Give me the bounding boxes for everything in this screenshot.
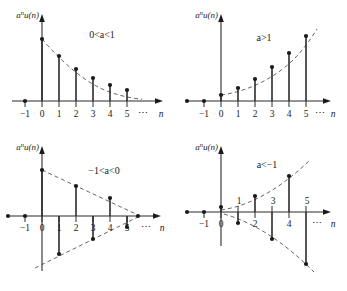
- tick-label-3: 3: [271, 196, 276, 206]
- panel-growing-positive: −1 0 1 2 3 4 5 ⋯ n anu(n) a>1: [174, 0, 347, 145]
- condition-label: 0<a<1: [89, 29, 115, 40]
- tick-label-5: 5: [125, 109, 130, 119]
- tick-label-minus1: −1: [20, 223, 30, 233]
- tick-label-3: 3: [91, 109, 96, 119]
- y-axis: [218, 14, 224, 101]
- ellipsis-label: ⋯: [315, 107, 326, 118]
- tick-label-0: 0: [40, 223, 45, 233]
- y-axis-label: anu(n): [16, 141, 39, 153]
- condition-label: −1<a<0: [88, 165, 119, 176]
- envelope-upper: [42, 170, 138, 215]
- tick-label-minus1: −1: [199, 109, 209, 119]
- condition-label: a<−1: [257, 159, 278, 170]
- tick-label-2: 2: [74, 109, 79, 119]
- x-tick-marks: [25, 216, 127, 222]
- tick-label-4: 4: [108, 109, 113, 119]
- ellipsis-label: ⋯: [138, 107, 149, 118]
- envelope-lower: [35, 217, 138, 268]
- tick-label-1: 1: [57, 109, 62, 119]
- tick-label-4: 4: [108, 223, 113, 233]
- ellipsis-label: ⋯: [141, 221, 152, 232]
- panel-growing-alternating: −1 0 1 2 3 4 5 ⋯ n anu(n) a<−1: [174, 146, 347, 291]
- x-axis-label: n: [331, 109, 336, 119]
- y-axis-label: anu(n): [195, 9, 218, 21]
- tick-label-1: 1: [237, 196, 242, 206]
- sample-dots: [6, 168, 140, 256]
- stem-group: [42, 170, 127, 254]
- tick-label-0: 0: [40, 109, 45, 119]
- stem-group: [221, 36, 306, 101]
- tick-label-5: 5: [125, 223, 130, 233]
- tick-label-5: 5: [304, 109, 309, 119]
- panel-decaying-positive: −1 0 1 2 3 4 5 ⋯ n anu(n) 0<a<1: [0, 0, 173, 145]
- x-axis-label: n: [159, 109, 164, 119]
- x-axis: [12, 98, 163, 104]
- tick-label-1: 1: [236, 109, 241, 119]
- x-axis: [188, 209, 331, 215]
- tick-label-2: 2: [253, 109, 258, 119]
- tick-label-2: 2: [253, 219, 258, 229]
- x-tick-marks: [204, 101, 306, 107]
- tick-label-0: 0: [219, 109, 224, 119]
- exponential-sequences-figure: −1 0 1 2 3 4 5 ⋯ n anu(n) 0<a<1: [0, 0, 347, 291]
- stem-group: [42, 39, 127, 101]
- x-axis: [188, 98, 331, 104]
- tick-label-0: 0: [219, 219, 224, 229]
- x-axis-label: n: [160, 223, 165, 233]
- y-axis-label: anu(n): [195, 141, 218, 153]
- ellipsis-label: ⋯: [312, 217, 323, 228]
- stem-group: [221, 176, 306, 264]
- panel-decaying-alternating: −1 0 1 2 3 4 5 ⋯ n anu(n) −1<a<0: [0, 146, 173, 291]
- x-axis-label: n: [331, 219, 336, 229]
- tick-label-4: 4: [287, 219, 292, 229]
- tick-label-5: 5: [305, 196, 310, 206]
- y-axis-label: anu(n): [16, 9, 39, 21]
- tick-label-3: 3: [91, 223, 96, 233]
- tick-label-minus1: −1: [20, 109, 30, 119]
- tick-label-3: 3: [270, 109, 275, 119]
- y-axis: [218, 146, 224, 246]
- tick-label-2: 2: [74, 223, 79, 233]
- condition-label: a>1: [256, 32, 271, 43]
- tick-label-minus1: −1: [199, 219, 209, 229]
- tick-label-1: 1: [57, 223, 62, 233]
- tick-label-4: 4: [287, 109, 292, 119]
- x-tick-marks: [25, 101, 127, 107]
